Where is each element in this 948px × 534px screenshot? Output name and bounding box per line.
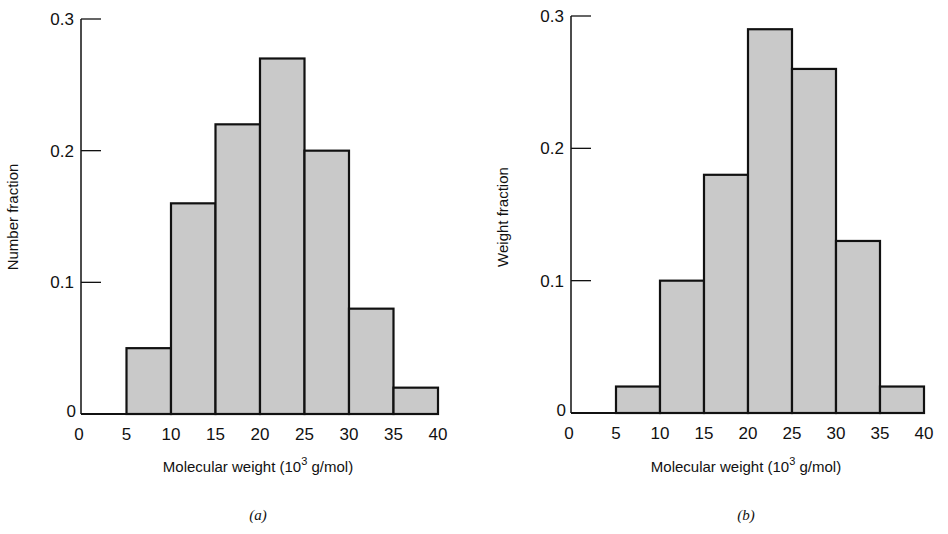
y-tick-label: 0.3 (50, 10, 74, 29)
panel-caption: (a) (249, 507, 267, 524)
x-tick-label: 15 (206, 425, 225, 444)
histogram-weight-fraction: 00.10.20.30510152025303540Weight fractio… (474, 0, 948, 534)
x-tick-label: 10 (162, 425, 181, 444)
bar-35-40 (880, 387, 924, 413)
x-tick-label: 15 (695, 424, 714, 443)
x-tick-label: 10 (651, 424, 670, 443)
y-tick-label: 0 (557, 401, 566, 420)
bar-5-10 (127, 348, 172, 414)
x-tick-label: 40 (915, 424, 934, 443)
y-tick-label: 0.3 (540, 7, 564, 26)
chart-panel-a: 00.10.20.30510152025303540Number fractio… (0, 0, 474, 534)
x-tick-label: 20 (739, 424, 758, 443)
chart-panel-b: 00.10.20.30510152025303540Weight fractio… (474, 0, 948, 534)
y-ticks: 00.10.20.3 (50, 10, 101, 421)
bar-5-10 (616, 387, 660, 413)
x-tick-label: 0 (564, 424, 573, 443)
y-tick-label: 0 (67, 402, 76, 421)
bar-25-30 (305, 151, 350, 414)
x-tick-label: 40 (429, 425, 448, 444)
x-tick-label: 30 (340, 425, 359, 444)
x-tick-label: 20 (251, 425, 270, 444)
bar-35-40 (394, 388, 439, 414)
bar-10-15 (171, 203, 216, 414)
x-tick-label: 0 (74, 425, 83, 444)
x-axis-label: Molecular weight (103 g/mol) (651, 455, 841, 475)
y-tick-label: 0.2 (50, 142, 74, 161)
bar-10-15 (660, 281, 704, 413)
bar-30-35 (349, 309, 394, 414)
bar-25-30 (792, 69, 836, 413)
y-tick-label: 0.2 (540, 139, 564, 158)
bars (127, 59, 439, 415)
bars (616, 29, 924, 413)
x-ticks: 0510152025303540 (564, 424, 933, 443)
y-tick-label: 0.1 (50, 273, 74, 292)
x-tick-label: 25 (295, 425, 314, 444)
x-tick-label: 35 (384, 425, 403, 444)
y-axis-label: Number fraction (4, 164, 21, 271)
x-tick-label: 30 (827, 424, 846, 443)
histogram-number-fraction: 00.10.20.30510152025303540Number fractio… (0, 0, 474, 534)
x-tick-label: 5 (122, 425, 131, 444)
x-ticks: 0510152025303540 (74, 425, 447, 444)
bar-15-20 (704, 175, 748, 413)
x-tick-label: 5 (611, 424, 620, 443)
x-tick-label: 35 (871, 424, 890, 443)
x-axis-label: Molecular weight (103 g/mol) (163, 455, 353, 475)
y-axis-label: Weight fraction (494, 167, 511, 267)
bar-15-20 (216, 124, 261, 414)
bar-30-35 (836, 241, 880, 413)
bar-20-25 (260, 59, 305, 415)
y-ticks: 00.10.20.3 (540, 7, 591, 420)
x-tick-label: 25 (783, 424, 802, 443)
bar-20-25 (748, 29, 792, 413)
y-tick-label: 0.1 (540, 272, 564, 291)
panel-caption: (b) (737, 507, 755, 524)
